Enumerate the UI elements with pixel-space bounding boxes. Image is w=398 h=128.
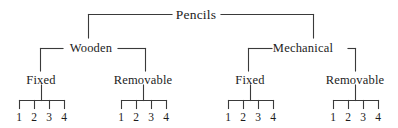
- pencils-tree-diagram: Pencils Wooden Mechanical Fixed Removabl…: [0, 0, 398, 128]
- node-label-mechanical-removable: Removable: [326, 74, 385, 87]
- leaf-number: 1: [330, 112, 336, 124]
- leaf-number: 3: [148, 112, 154, 124]
- leaf-number: 1: [225, 112, 231, 124]
- leaf-number: 2: [31, 112, 37, 124]
- leaf-number: 4: [270, 112, 276, 124]
- node-label-wooden: Wooden: [70, 42, 113, 55]
- leaf-number: 2: [345, 112, 351, 124]
- node-label-mechanical: Mechanical: [273, 42, 333, 55]
- leaf-number: 2: [133, 112, 139, 124]
- node-label-mechanical-fixed: Fixed: [235, 74, 264, 87]
- leaf-number: 3: [46, 112, 52, 124]
- leaf-number: 4: [163, 112, 169, 124]
- node-label-wooden-fixed: Fixed: [26, 74, 55, 87]
- leaf-number: 3: [255, 112, 261, 124]
- leaf-number: 4: [375, 112, 381, 124]
- leaf-number: 2: [240, 112, 246, 124]
- node-label-pencils: Pencils: [176, 8, 216, 22]
- leaf-number: 1: [16, 112, 22, 124]
- node-label-wooden-removable: Removable: [114, 74, 173, 87]
- leaf-number: 4: [61, 112, 67, 124]
- leaf-number: 1: [118, 112, 124, 124]
- leaf-number: 3: [360, 112, 366, 124]
